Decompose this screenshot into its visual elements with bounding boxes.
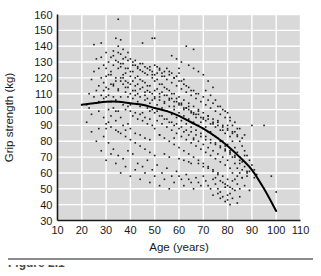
figure-caption-text: Figure 2.1 [8, 265, 65, 270]
y-tick-label: 120 [34, 72, 52, 84]
x-tick-label: 20 [76, 224, 88, 236]
grip-strength-scatter-chart: 102030405060708090100110 304050607080901… [0, 0, 321, 276]
y-axis-title: Grip strength (kg) [3, 73, 15, 163]
x-axis-title: Age (years) [149, 241, 209, 253]
x-tick-label: 60 [173, 224, 185, 236]
y-tick-label: 50 [40, 183, 52, 195]
y-tick-label: 130 [34, 56, 52, 68]
caption-divider-rule [8, 258, 313, 260]
y-tick-label: 150 [34, 24, 52, 36]
x-tick-label: 40 [124, 224, 136, 236]
x-tick-label: 70 [197, 224, 209, 236]
y-tick-label: 140 [34, 40, 52, 52]
y-tick-label: 30 [40, 215, 52, 227]
y-tick-label: 110 [35, 88, 53, 100]
y-tick-label: 80 [40, 135, 52, 147]
x-tick-label: 110 [292, 224, 310, 236]
y-tick-label: 160 [34, 9, 52, 21]
y-tick-label: 40 [40, 199, 52, 211]
figure-container: 102030405060708090100110 304050607080901… [0, 0, 321, 276]
x-tick-label: 10 [51, 224, 63, 236]
y-tick-label: 90 [40, 119, 52, 131]
x-tick-label: 100 [267, 224, 285, 236]
x-tick-label: 80 [221, 224, 233, 236]
y-tick-label: 60 [40, 167, 52, 179]
y-tick-label: 100 [34, 104, 52, 116]
figure-caption-clipped: Figure 2.1 [8, 265, 313, 276]
y-tick-label: 70 [40, 151, 52, 163]
x-tick-label: 30 [100, 224, 112, 236]
x-tick-label: 90 [246, 224, 258, 236]
x-tick-label: 50 [149, 224, 161, 236]
